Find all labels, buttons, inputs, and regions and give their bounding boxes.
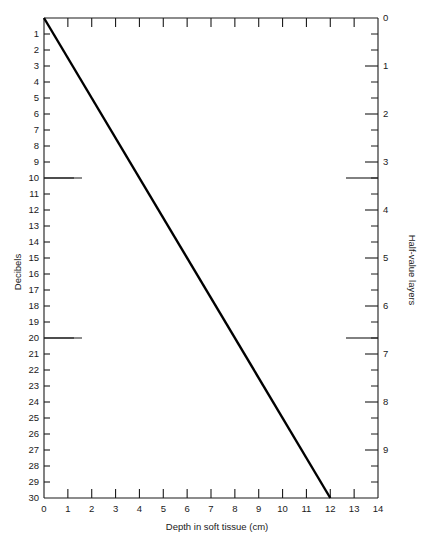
y-tick-label: 7 [34, 124, 39, 135]
y-tick-label: 10 [28, 172, 39, 183]
x-tick-label: 7 [208, 503, 213, 514]
y2-tick-label: 5 [383, 252, 388, 263]
y-tick-label: 24 [28, 396, 39, 407]
y-tick-label: 15 [28, 252, 39, 263]
y-tick-label: 13 [28, 220, 39, 231]
y-tick-label: 29 [28, 476, 39, 487]
y-tick-label: 21 [28, 348, 39, 359]
y-tick-label: 4 [34, 76, 39, 87]
y2-tick-label: 2 [383, 108, 388, 119]
y-tick-label: 9 [34, 156, 39, 167]
y-tick-label: 23 [28, 380, 39, 391]
y2-axis-title: Half-value layers [407, 235, 418, 306]
x-tick-label: 12 [325, 503, 336, 514]
y-tick-label: 14 [28, 236, 39, 247]
x-tick-label: 6 [184, 503, 189, 514]
x-tick-label: 2 [89, 503, 94, 514]
y-tick-label: 12 [28, 204, 39, 215]
y-tick-label: 28 [28, 460, 39, 471]
y-tick-label: 19 [28, 316, 39, 327]
y-tick-label: 20 [28, 332, 39, 343]
y-tick-label: 26 [28, 428, 39, 439]
x-tick-label: 5 [161, 503, 166, 514]
y-tick-label: 8 [34, 140, 39, 151]
x-axis-title: Depth in soft tissue (cm) [166, 521, 268, 532]
x-tick-label: 10 [277, 503, 288, 514]
attenuation-chart: 01234567891011121314 1234567891011121314… [0, 0, 425, 541]
x-tick-label: 3 [113, 503, 118, 514]
y2-tick-label: 9 [383, 444, 388, 455]
y-tick-label: 16 [28, 268, 39, 279]
x-tick-label: 9 [256, 503, 261, 514]
x-tick-label: 0 [41, 503, 46, 514]
y-axis-title: Decibels [12, 254, 23, 291]
x-tick-label: 14 [373, 503, 384, 514]
x-tick-label: 13 [349, 503, 360, 514]
y-tick-label: 27 [28, 444, 39, 455]
y-tick-label: 1 [34, 28, 39, 39]
y2-tick-label: 6 [383, 300, 388, 311]
x-tick-label: 11 [301, 503, 311, 514]
x-tick-label: 4 [137, 503, 142, 514]
y-tick-label: 5 [34, 92, 39, 103]
y-tick-label: 25 [28, 412, 39, 423]
chart-background [0, 0, 425, 541]
y2-tick-label: 4 [383, 204, 388, 215]
y-tick-label: 2 [34, 44, 39, 55]
y2-tick-label: 0 [383, 12, 388, 23]
x-tick-label: 1 [65, 503, 70, 514]
y-tick-label: 17 [28, 284, 39, 295]
chart-canvas: 01234567891011121314 1234567891011121314… [0, 0, 425, 541]
y-tick-label: 6 [34, 108, 39, 119]
x-tick-label: 8 [232, 503, 237, 514]
y2-tick-label: 8 [383, 396, 388, 407]
x-axis-tick-labels: 01234567891011121314 [41, 503, 383, 514]
y-tick-label: 18 [28, 300, 39, 311]
y2-tick-label: 1 [383, 60, 388, 71]
y-tick-label: 30 [28, 492, 39, 503]
y2-tick-label: 7 [383, 348, 388, 359]
y-tick-label: 3 [34, 60, 39, 71]
y-tick-label: 22 [28, 364, 39, 375]
y-tick-label: 11 [29, 188, 39, 199]
y2-tick-label: 3 [383, 156, 388, 167]
